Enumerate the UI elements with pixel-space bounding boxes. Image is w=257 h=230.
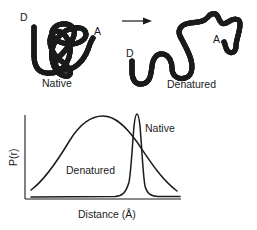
x-axis-label: Distance (Å): [78, 209, 136, 220]
native-chain: [34, 24, 93, 76]
native-terminal-d-label: D: [20, 12, 28, 23]
denatured-terminal-a-label: A: [213, 34, 220, 45]
chart-native-annotation: Native: [145, 123, 175, 134]
native-label: Native: [42, 78, 72, 89]
denatured-chain: [132, 14, 240, 85]
y-axis-label: P(r): [8, 149, 19, 167]
native-terminal-a-label: A: [94, 26, 101, 37]
right-arrow-icon: [122, 18, 152, 25]
chart-denatured-annotation: Denatured: [66, 165, 115, 176]
denatured-label: Denatured: [167, 79, 216, 90]
denatured-terminal-d-label: D: [126, 48, 134, 59]
